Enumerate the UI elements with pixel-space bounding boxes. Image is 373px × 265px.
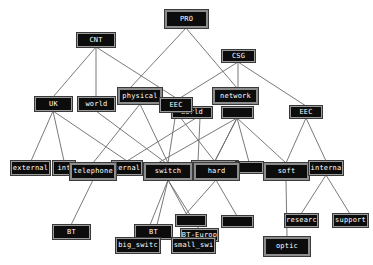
node-optic[interactable]: optic xyxy=(264,237,310,256)
node-small-swi[interactable]: small_swi xyxy=(172,238,215,253)
edge xyxy=(31,111,53,161)
node-label: world xyxy=(85,101,107,108)
node-label: switch xyxy=(155,168,182,175)
edge xyxy=(130,28,186,88)
node-label: physical xyxy=(122,93,157,100)
node-uk[interactable]: UK xyxy=(35,97,72,111)
edge xyxy=(216,180,237,216)
node-label: interna xyxy=(311,165,342,172)
node-eec-mid[interactable]: EEC xyxy=(160,98,192,112)
node-bt-mid[interactable]: BT xyxy=(135,225,172,239)
node-telephone[interactable]: telephone xyxy=(70,163,116,180)
edge xyxy=(237,118,249,162)
node-dark-mid[interactable] xyxy=(176,215,206,226)
node-world-left[interactable]: world xyxy=(78,97,115,111)
edge xyxy=(306,118,326,161)
node-label: big_switc xyxy=(118,242,158,249)
node-label: researc xyxy=(286,217,317,224)
node-label: network xyxy=(220,93,251,100)
edge xyxy=(53,111,127,161)
node-researc[interactable]: researc xyxy=(285,214,318,227)
node-support[interactable]: support xyxy=(333,214,368,227)
node-label: ternal xyxy=(114,165,141,172)
edge xyxy=(237,118,286,163)
node-label: BT xyxy=(67,229,76,236)
node-label: small_swi xyxy=(174,242,214,249)
edge xyxy=(286,118,306,163)
node-network[interactable]: network xyxy=(213,88,258,104)
edge xyxy=(286,180,287,237)
node-hidden-net[interactable] xyxy=(222,107,253,118)
node-physical[interactable]: physical xyxy=(118,88,162,104)
node-cnt[interactable]: CNT xyxy=(77,33,115,47)
node-dark-right[interactable] xyxy=(222,216,253,227)
edge xyxy=(127,118,196,161)
node-label: external xyxy=(13,165,48,172)
node-label: optic xyxy=(276,243,298,250)
edge xyxy=(53,111,64,161)
edge xyxy=(185,180,216,215)
node-soft[interactable]: soft xyxy=(264,163,309,180)
node-label: EEC xyxy=(299,109,312,116)
node-dark-small[interactable] xyxy=(236,162,263,173)
node-label: hard xyxy=(208,168,226,175)
edge xyxy=(326,175,350,214)
node-bt-left[interactable]: BT xyxy=(53,225,90,239)
node-label: telephone xyxy=(73,168,113,175)
node-label: CNT xyxy=(89,37,102,44)
node-label: UK xyxy=(49,101,58,108)
edge xyxy=(71,180,93,225)
node-big-switc[interactable]: big_switc xyxy=(116,238,160,253)
node-label: PRO xyxy=(180,16,193,23)
node-label: CSG xyxy=(232,53,245,60)
edge xyxy=(176,112,216,163)
node-label: BT xyxy=(149,229,158,236)
node-switch[interactable]: switch xyxy=(144,163,192,180)
node-external[interactable]: external xyxy=(11,161,50,175)
node-pro[interactable]: PRO xyxy=(165,10,208,28)
node-label: EEC xyxy=(169,102,182,109)
node-ternal[interactable]: ternal xyxy=(112,161,142,175)
node-hard[interactable]: hard xyxy=(194,163,239,180)
edge xyxy=(301,175,326,214)
graph-canvas: PROCNTCSGUKworldphysicalworldEECnetworkE… xyxy=(0,0,373,265)
edge xyxy=(53,47,96,97)
node-interna[interactable]: interna xyxy=(309,161,343,175)
node-label: support xyxy=(335,217,366,224)
node-csg[interactable]: CSG xyxy=(222,50,255,62)
node-eec-right[interactable]: EEC xyxy=(290,106,322,118)
node-label: soft xyxy=(278,168,296,175)
node-label: int xyxy=(57,165,70,172)
